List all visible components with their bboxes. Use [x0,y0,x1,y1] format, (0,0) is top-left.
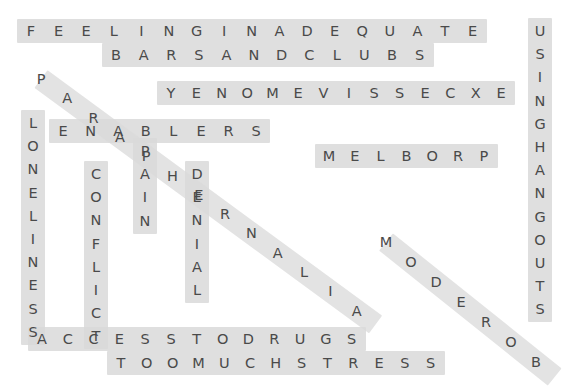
letter-too-much-stress-10: E [368,352,390,374]
letter-feeling-inadequate-8: N [241,20,263,42]
letter-pain-2: I [134,186,156,208]
letter-paraphernalia-diagonal-11: I [319,280,341,302]
letter-paraphernalia-diagonal-1: A [56,87,78,109]
letter-excessive-money-reversed-10: E [414,82,436,104]
letter-feeling-inadequate-6: G [186,20,208,42]
letter-too-much-stress-11: S [394,352,416,374]
letter-bars-and-clubs-2: R [160,44,182,66]
letter-access-to-drugs-3: E [108,328,130,350]
letter-enablers-7: S [245,120,267,142]
letter-excessive-money-reversed-1: E [185,82,207,104]
letter-problem-reversed-5: R [447,145,469,167]
letter-access-to-drugs-7: O [212,328,234,350]
letter-problem-reversed-6: P [473,145,495,167]
letter-boredom-diagonal-reversed-1: O [400,251,422,273]
letter-feeling-inadequate-14: A [406,20,428,42]
letter-bars-and-clubs-9: U [353,44,375,66]
letter-using-hangouts-10: U [529,252,551,274]
letter-loneliness-6: N [22,251,44,273]
letter-paraphernalia-diagonal-5: H [162,165,184,187]
letter-denial-0: D [186,163,208,185]
letter-using-hangouts-4: G [529,113,551,135]
letter-excessive-money-reversed-3: O [236,82,258,104]
letter-enablers-4: L [162,120,184,142]
letter-using-hangouts-11: T [529,275,551,297]
letter-too-much-stress-2: O [162,352,184,374]
letter-boredom-diagonal-reversed-5: O [500,331,522,353]
letter-loneliness-3: E [22,182,44,204]
letter-bars-and-clubs-5: N [243,44,265,66]
letter-problem-reversed-3: B [395,145,417,167]
letter-access-to-drugs-12: S [341,328,363,350]
letter-loneliness-2: N [22,158,44,180]
letter-access-to-drugs-9: R [263,328,285,350]
letter-using-hangouts-3: N [529,90,551,112]
letter-conflict-4: L [85,256,107,278]
letter-access-to-drugs-4: S [134,328,156,350]
letter-using-hangouts-9: O [529,229,551,251]
letter-paraphernalia-diagonal-2: R [83,107,105,129]
letter-conflict-3: F [85,233,107,255]
letter-boredom-diagonal-reversed-2: D [425,271,447,293]
letter-denial-5: L [186,279,208,301]
letter-feeling-inadequate-7: I [213,20,235,42]
letter-excessive-money-reversed-12: X [465,82,487,104]
letter-feeling-inadequate-12: Q [351,20,373,42]
letter-conflict-2: N [85,209,107,231]
letter-excessive-money-reversed-8: S [363,82,385,104]
letter-problem-reversed-0: M [318,145,340,167]
letter-loneliness-8: S [22,298,44,320]
letter-paraphernalia-diagonal-4: P [135,145,157,167]
letter-using-hangouts-8: G [529,206,551,228]
letter-conflict-7: T [85,325,107,347]
letter-boredom-diagonal-reversed-0: M [375,231,397,253]
letter-bars-and-clubs-0: B [105,44,127,66]
letter-access-to-drugs-10: U [289,328,311,350]
letter-feeling-inadequate-5: N [158,20,180,42]
letter-enablers-3: B [135,120,157,142]
letter-conflict-5: I [85,279,107,301]
letter-access-to-drugs-6: T [186,328,208,350]
letter-boredom-diagonal-reversed-3: E [450,291,472,313]
letter-access-to-drugs-11: G [315,328,337,350]
letter-using-hangouts-6: A [529,159,551,181]
letter-loneliness-4: L [22,205,44,227]
letter-bars-and-clubs-1: A [133,44,155,66]
letter-excessive-money-reversed-11: C [439,82,461,104]
letter-enablers-6: R [218,120,240,142]
letter-using-hangouts-0: U [529,20,551,42]
letter-enablers-0: E [52,120,74,142]
letter-too-much-stress-0: T [110,352,132,374]
letter-bars-and-clubs-11: S [409,44,431,66]
letter-problem-reversed-4: O [421,145,443,167]
letter-too-much-stress-5: C [239,352,261,374]
letter-feeling-inadequate-2: E [75,20,97,42]
letter-feeling-inadequate-1: E [48,20,70,42]
letter-using-hangouts-12: S [529,298,551,320]
letter-paraphernalia-diagonal-6: E [188,184,210,206]
letter-paraphernalia-diagonal-9: A [267,242,289,264]
letter-too-much-stress-4: U [213,352,235,374]
letter-too-much-stress-12: S [420,352,442,374]
letter-bars-and-clubs-10: B [381,44,403,66]
letter-loneliness-7: E [22,274,44,296]
letter-paraphernalia-diagonal-10: L [293,261,315,283]
letter-too-much-stress-1: O [136,352,158,374]
letter-paraphernalia-diagonal-7: R [214,203,236,225]
letter-excessive-money-reversed-7: I [338,82,360,104]
letter-problem-reversed-1: E [344,145,366,167]
letter-excessive-money-reversed-9: S [389,82,411,104]
letter-too-much-stress-6: H [265,352,287,374]
letter-pain-3: N [134,210,156,232]
letter-problem-reversed-2: L [370,145,392,167]
letter-feeling-inadequate-16: E [462,20,484,42]
letter-paraphernalia-diagonal-8: N [240,222,262,244]
letter-enablers-5: E [190,120,212,142]
letter-boredom-diagonal-reversed-6: B [525,351,547,373]
letter-using-hangouts-2: I [529,66,551,88]
letter-excessive-money-reversed-6: V [312,82,334,104]
letter-excessive-money-reversed-0: Y [160,82,182,104]
letter-excessive-money-reversed-13: E [490,82,512,104]
letter-using-hangouts-5: H [529,136,551,158]
